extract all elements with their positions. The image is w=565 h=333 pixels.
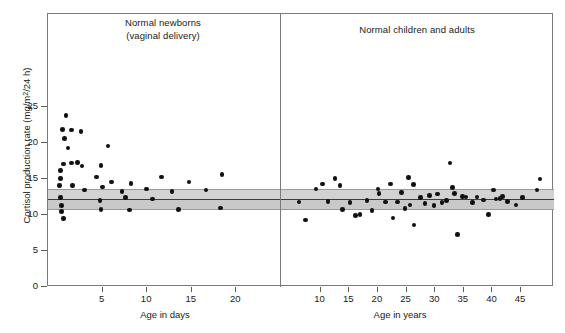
data-point xyxy=(470,200,475,205)
x-axis-tick-label: 20 xyxy=(220,293,250,304)
data-point xyxy=(75,160,80,165)
data-point xyxy=(377,191,382,196)
data-point xyxy=(338,183,343,188)
data-point xyxy=(411,182,416,187)
x-axis-tick-label: 15 xyxy=(176,293,206,304)
data-point xyxy=(452,191,457,196)
data-point xyxy=(427,193,432,198)
data-point xyxy=(383,200,388,205)
x-axis-tick-label: 45 xyxy=(505,293,535,304)
x-axis-tick-label: 40 xyxy=(476,293,506,304)
data-point xyxy=(70,183,75,188)
data-point xyxy=(520,195,525,200)
data-point xyxy=(57,183,62,188)
plot-area xyxy=(47,13,553,286)
x-axis-tick xyxy=(320,287,321,292)
data-point xyxy=(348,200,353,205)
data-point xyxy=(80,164,85,169)
data-point xyxy=(450,185,455,190)
y-axis-tick-label: 25 xyxy=(14,100,38,111)
panel-divider xyxy=(280,14,281,287)
x-axis-tick xyxy=(146,287,147,292)
data-point xyxy=(418,195,423,200)
reference-band-bottom-edge xyxy=(48,209,554,210)
data-point xyxy=(444,198,449,203)
data-point xyxy=(109,180,114,185)
x-axis-tick xyxy=(406,287,407,292)
data-point xyxy=(500,194,505,199)
x-axis-tick xyxy=(377,287,378,292)
x-axis-tick xyxy=(463,287,464,292)
panel-title-adults: Normal children and adults xyxy=(282,24,552,37)
data-point xyxy=(358,212,363,217)
data-point xyxy=(120,189,125,194)
data-point xyxy=(403,206,408,211)
y-axis-tick-group: 0510152025 xyxy=(0,0,38,333)
x-axis-title-years: Age in years xyxy=(340,309,460,320)
data-point xyxy=(99,207,104,212)
data-point xyxy=(391,216,396,221)
data-point xyxy=(61,216,66,221)
data-point xyxy=(406,175,411,180)
y-axis-tick-label: 0 xyxy=(14,280,38,291)
x-axis-tick-label: 10 xyxy=(305,293,335,304)
data-point xyxy=(127,208,132,213)
y-axis-tick-label: 5 xyxy=(14,244,38,255)
data-point xyxy=(340,207,345,212)
x-axis-tick xyxy=(434,287,435,292)
x-axis-tick-label: 25 xyxy=(391,293,421,304)
y-axis-tick-label: 15 xyxy=(14,172,38,183)
data-point xyxy=(69,161,74,166)
data-point xyxy=(61,162,66,167)
x-axis-tick xyxy=(520,287,521,292)
data-point xyxy=(79,129,84,134)
x-axis-tick-label: 35 xyxy=(448,293,478,304)
cortisol-scatter-figure: Cortisol production rate (mg/m2/24 h) 05… xyxy=(0,0,565,333)
data-point xyxy=(187,180,192,185)
data-point xyxy=(100,185,105,190)
data-point xyxy=(333,176,338,181)
data-point xyxy=(486,212,491,217)
data-point xyxy=(491,188,496,193)
data-point xyxy=(395,200,400,205)
data-point xyxy=(129,181,134,186)
data-point xyxy=(218,206,223,211)
x-axis-tick-label: 15 xyxy=(333,293,363,304)
data-point xyxy=(60,127,65,132)
data-point xyxy=(159,175,164,180)
reference-band-lower xyxy=(48,199,554,209)
data-point xyxy=(144,187,149,192)
data-point xyxy=(98,198,103,203)
data-point xyxy=(423,201,428,206)
data-point xyxy=(388,182,393,187)
x-axis-title-days: Age in days xyxy=(105,309,225,320)
data-point xyxy=(82,188,87,193)
data-point xyxy=(220,172,225,177)
data-point xyxy=(58,195,63,200)
data-point xyxy=(99,163,104,168)
data-point xyxy=(538,177,543,182)
data-point xyxy=(399,190,404,195)
data-point xyxy=(170,189,175,194)
data-point xyxy=(62,136,67,141)
data-point xyxy=(505,199,510,204)
x-axis-tick-label: 30 xyxy=(419,293,449,304)
data-point xyxy=(69,128,74,133)
x-axis-tick xyxy=(235,287,236,292)
x-axis-tick-label: 20 xyxy=(362,293,392,304)
x-axis-tick-label: 5 xyxy=(87,293,117,304)
data-point xyxy=(455,232,460,237)
x-axis-tick xyxy=(491,287,492,292)
data-point xyxy=(320,182,325,187)
x-axis-tick xyxy=(348,287,349,292)
data-point xyxy=(59,209,64,214)
data-point xyxy=(106,144,111,149)
y-axis-tick xyxy=(41,286,47,287)
x-axis-tick xyxy=(102,287,103,292)
panel-title-newborns: Normal newborns (vaginal delivery) xyxy=(48,17,278,42)
data-point xyxy=(59,203,64,208)
data-point xyxy=(448,161,453,166)
data-point xyxy=(58,176,63,181)
data-point xyxy=(412,223,417,228)
x-axis-tick xyxy=(191,287,192,292)
